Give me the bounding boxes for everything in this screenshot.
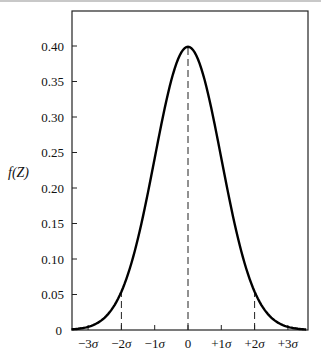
x-tick-label: +1σ [211, 336, 232, 351]
x-tick-label: −3σ [78, 336, 99, 351]
reference-dashed-lines [121, 47, 254, 330]
y-axis-label: f(Z) [8, 165, 29, 181]
normal-distribution-chart: 00.050.100.150.200.250.300.350.40 −3σ−2σ… [0, 0, 321, 362]
y-tick-label: 0.15 [41, 216, 64, 231]
y-tick-label: 0.30 [41, 110, 64, 125]
y-tick-label: 0.05 [41, 287, 64, 302]
plot-frame [72, 11, 308, 330]
y-tick-label: 0 [56, 323, 63, 338]
y-tick-label: 0.35 [41, 74, 64, 89]
y-tick-label: 0.10 [41, 252, 64, 267]
x-tick-label: +3σ [278, 336, 299, 351]
y-tick-label: 0.40 [41, 39, 64, 54]
x-tick-label: +2σ [244, 336, 265, 351]
x-tick-label: −1σ [145, 336, 166, 351]
y-tick-label: 0.25 [41, 145, 64, 160]
density-curve [71, 47, 306, 330]
y-tick-label: 0.20 [41, 181, 64, 196]
x-tick-label: 0 [185, 336, 192, 351]
x-tick-label: −2σ [111, 336, 132, 351]
